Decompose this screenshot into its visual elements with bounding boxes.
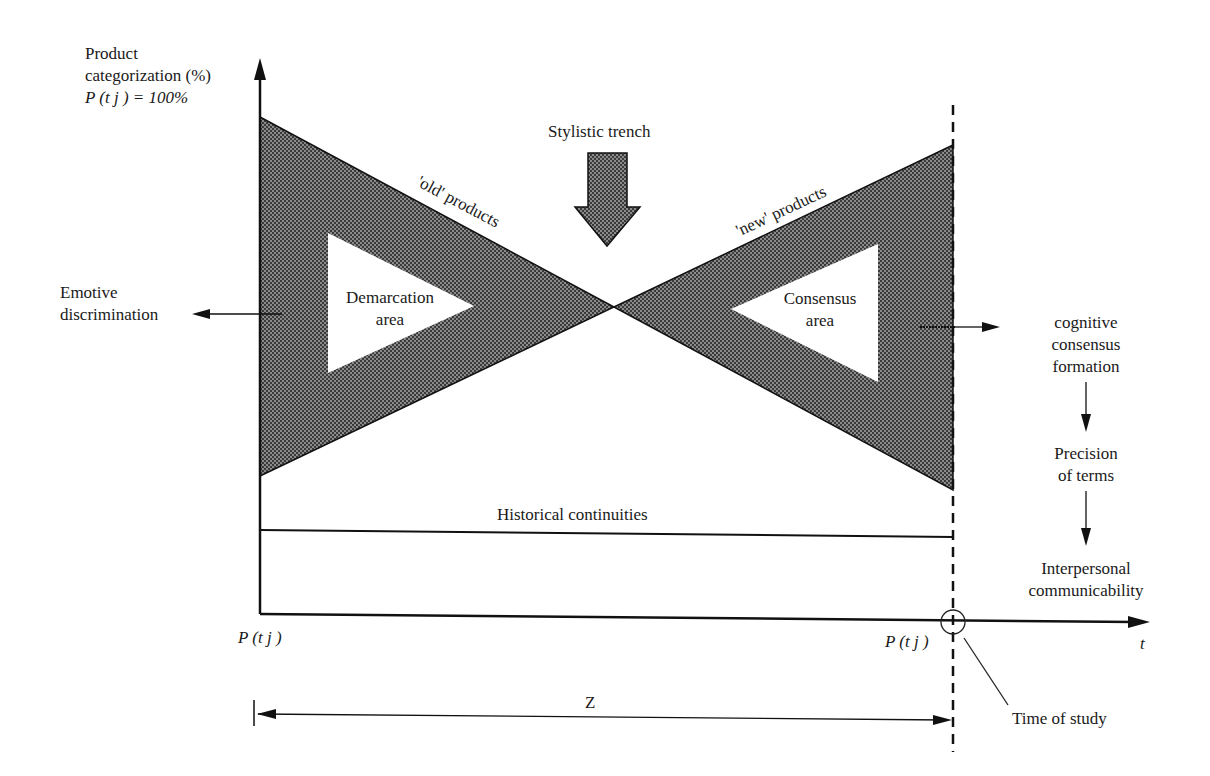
stylistic-trench-arrow-icon [575,153,640,246]
y-axis-label-line2: categorization (%) [85,66,211,86]
flow-step1-line1: cognitive [1016,313,1156,333]
y-axis-arrow-icon [254,58,266,80]
demarcation-label-line1: Demarcation [330,288,450,308]
flow-step3-line2: communicability [1006,581,1166,601]
time-of-study-pointer [964,638,1008,705]
z-span-right-arrow-icon [933,715,952,725]
historical-continuities-label: Historical continuities [497,505,648,525]
consensus-arrow-head-icon [982,322,1000,332]
demarcation-label-line2: area [330,310,450,330]
z-span-left-arrow-icon [257,709,276,719]
stylistic-trench-label: Stylistic trench [548,122,650,142]
flow-step2-line2: of terms [1016,466,1156,486]
y-axis-max-label: P (t j ) = 100% [85,88,188,108]
flow-arrow-1-head-icon [1081,414,1091,432]
z-span-line [258,714,945,720]
x-axis [260,614,1135,622]
flow-step1-line3: formation [1016,357,1156,377]
consensus-label-line2: area [770,311,870,331]
emotive-label-line2: discrimination [60,305,158,325]
emotive-arrow-head-icon [192,309,210,319]
flow-step1-line2: consensus [1016,335,1156,355]
x-axis-arrow-icon [1128,616,1150,628]
x-axis-end-label: P (t j ) [885,632,929,652]
y-axis-label-line1: Product [85,44,138,64]
emotive-label-line1: Emotive [60,283,118,303]
consensus-label-line1: Consensus [770,289,870,309]
x-axis-start-label: P (t j ) [238,628,282,648]
flow-arrow-2-head-icon [1081,528,1091,546]
x-axis-label: t [1140,634,1145,654]
historical-continuities-line [260,530,953,537]
z-label: Z [585,693,595,713]
diagram-canvas [0,0,1210,776]
flow-step3-line1: Interpersonal [1006,559,1166,579]
time-of-study-label: Time of study [1012,709,1107,729]
flow-step2-line1: Precision [1016,444,1156,464]
